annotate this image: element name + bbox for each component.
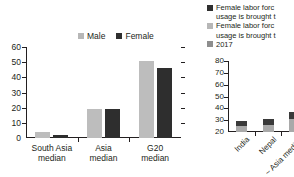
bar xyxy=(87,109,102,138)
legend-swatch-icon xyxy=(207,23,213,29)
x-axis-group-label: G20median xyxy=(129,143,181,163)
y-tick-label: 20 xyxy=(215,128,224,136)
main-plot-area: 0102030405060 South AsiamedianAsiamedian… xyxy=(26,47,181,138)
right-chart-legend: Female labor forc usage is brought t Fem… xyxy=(207,3,276,49)
y-tick-mark xyxy=(22,62,26,63)
y-tick-mark xyxy=(224,120,228,121)
legend-item-2: Female labor forc usage is brought t xyxy=(207,21,276,39)
legend-label-female: Female xyxy=(125,31,153,41)
x-axis-group-label: Asiamedian xyxy=(78,143,130,163)
y-tick-mark xyxy=(22,123,26,124)
y-tick-label: 0 xyxy=(16,134,21,143)
y-tick-label: 60 xyxy=(215,81,224,89)
bar-segment-top xyxy=(236,121,247,126)
bar-segment-top xyxy=(289,112,294,119)
right-plot-area: 20304050607080 IndiaNepal~ Asia median xyxy=(228,61,294,132)
bar xyxy=(157,68,172,138)
y-tick-label: 10 xyxy=(12,119,21,128)
y-tick-label: 50 xyxy=(12,58,21,67)
y-tick-label: 20 xyxy=(12,103,21,112)
y-tick-label: 80 xyxy=(215,57,224,65)
x-tick-mark xyxy=(281,132,282,136)
x-axis-group-label: South Asiamedian xyxy=(26,143,78,163)
legend-swatch-icon xyxy=(116,33,122,39)
y-tick-mark xyxy=(224,97,228,98)
bar xyxy=(105,109,120,138)
bar xyxy=(139,61,154,138)
legend-item-male: Male xyxy=(78,31,105,41)
bar xyxy=(289,112,294,132)
y-tick-label: 30 xyxy=(215,116,224,124)
y-axis-line xyxy=(26,47,27,138)
right-bar-chart: Female labor forc usage is brought t Fem… xyxy=(205,0,294,177)
x-axis-group-label-line: Asia xyxy=(78,143,130,153)
main-bar-chart: Male Female 0102030405060 South Asiamedi… xyxy=(0,0,205,177)
y-tick-mark-right xyxy=(181,93,185,94)
y-tick-mark-right xyxy=(181,47,185,48)
legend-label-1-line1: Female labor forc xyxy=(216,3,274,12)
y-tick-label: 40 xyxy=(215,104,224,112)
y-tick-mark xyxy=(224,85,228,86)
y-tick-mark-right xyxy=(181,123,185,124)
y-tick-mark-right xyxy=(181,108,185,109)
y-tick-mark xyxy=(22,108,26,109)
y-tick-label: 70 xyxy=(215,69,224,77)
legend-item-3: 2017 xyxy=(207,40,276,49)
x-axis-group-label-line: South Asia xyxy=(26,143,78,153)
x-axis-group-label-line: median xyxy=(78,153,130,163)
y-tick-label: 50 xyxy=(215,93,224,101)
y-tick-label: 30 xyxy=(12,88,21,97)
legend-swatch-icon xyxy=(78,33,84,39)
x-tick-mark xyxy=(255,132,256,136)
y-tick-mark xyxy=(22,93,26,94)
x-tick-mark xyxy=(129,138,130,142)
y-tick-mark xyxy=(22,47,26,48)
y-axis-line xyxy=(228,61,229,132)
bar xyxy=(263,119,274,132)
legend-swatch-icon xyxy=(207,5,213,11)
y-tick-label: 60 xyxy=(12,43,21,52)
bar-segment-top xyxy=(263,119,274,125)
y-tick-mark-right xyxy=(181,62,185,63)
y-tick-mark xyxy=(224,108,228,109)
y-tick-mark-right xyxy=(181,77,185,78)
x-axis-group-label-line: median xyxy=(26,153,78,163)
legend-label-male: Male xyxy=(87,31,105,41)
y-tick-label: 40 xyxy=(12,73,21,82)
x-tick-mark xyxy=(78,138,79,142)
bar xyxy=(53,135,68,138)
x-axis-group-label-line: median xyxy=(129,153,181,163)
y-tick-mark xyxy=(22,77,26,78)
x-axis-label: India xyxy=(233,135,252,154)
legend-swatch-icon xyxy=(207,41,213,47)
main-chart-legend: Male Female xyxy=(78,31,154,41)
y-tick-mark xyxy=(224,61,228,62)
x-axis-group-label-line: G20 xyxy=(129,143,181,153)
legend-label-2-line2: usage is brought t xyxy=(216,31,276,40)
legend-label-1-line2: usage is brought t xyxy=(216,12,276,21)
legend-item-1: Female labor forc usage is brought t xyxy=(207,3,276,21)
bar xyxy=(236,121,247,132)
x-axis-label: Nepal xyxy=(257,135,278,156)
legend-label-3: 2017 xyxy=(216,40,233,49)
y-tick-mark xyxy=(224,73,228,74)
legend-label-2-line1: Female labor forc xyxy=(216,21,274,30)
legend-item-female: Female xyxy=(116,31,153,41)
bar xyxy=(35,132,50,138)
